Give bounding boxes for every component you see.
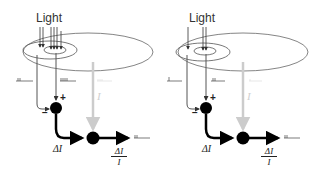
mean-spike-icon <box>249 79 262 81</box>
left-panel: Light + − I ΔI ΔI I <box>0 0 156 174</box>
center-ellipse <box>194 47 216 55</box>
contrast-output-fraction: ΔI I <box>111 146 127 167</box>
surround-spike-icon <box>16 78 33 81</box>
delta-i-label: ΔI <box>53 143 62 154</box>
fraction-numerator: ΔI <box>111 146 127 157</box>
fraction-numerator: ΔI <box>261 146 277 157</box>
center-spike-icon <box>60 78 76 81</box>
mean-intensity-label: I <box>97 90 101 102</box>
right-diagram-graphic <box>157 0 313 174</box>
division-node <box>237 132 250 145</box>
center-ellipse <box>44 46 66 54</box>
large-field-ellipse <box>23 33 153 71</box>
surround-ellipse <box>23 41 77 59</box>
mean-intensity-label: I <box>247 90 251 102</box>
fraction-denominator: I <box>261 157 277 167</box>
delta-i-label: ΔI <box>202 143 211 154</box>
minus-sign: − <box>192 107 198 118</box>
subtraction-node <box>200 102 212 114</box>
subtraction-node <box>50 102 62 114</box>
output-spike-icon <box>134 135 150 138</box>
light-label: Light <box>36 11 62 25</box>
left-diagram-graphic <box>0 0 156 174</box>
minus-sign: − <box>42 107 48 118</box>
surround-spike-icon <box>167 77 182 81</box>
plus-sign: + <box>210 92 216 103</box>
fraction-denominator: I <box>111 157 127 167</box>
light-label: Light <box>189 11 215 25</box>
right-panel: Light + − I ΔI ΔI I <box>157 0 313 174</box>
plus-sign: + <box>60 92 66 103</box>
output-spike-icon <box>284 135 300 138</box>
center-spike-icon <box>211 78 225 81</box>
mean-spike-icon <box>97 79 112 81</box>
contrast-output-fraction: ΔI I <box>261 146 277 167</box>
division-node <box>87 132 100 145</box>
